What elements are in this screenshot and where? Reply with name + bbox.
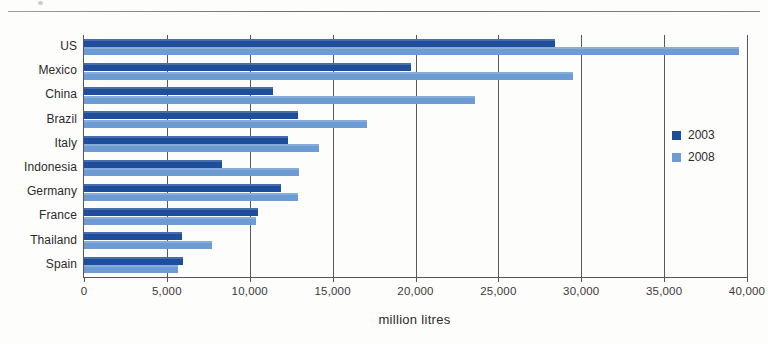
x-tick — [581, 277, 582, 282]
x-tick-label: 30,000 — [563, 285, 599, 297]
x-tick — [84, 277, 85, 282]
bar-row: Italy — [84, 132, 747, 156]
chart-legend: 20032008 — [672, 128, 715, 164]
category-label: Germany — [27, 184, 77, 198]
bar-row: France — [84, 204, 747, 228]
x-tick — [498, 277, 499, 282]
x-tick — [333, 277, 334, 282]
category-label: Italy — [54, 136, 77, 150]
bar-row: Germany — [84, 180, 747, 204]
category-label: Spain — [46, 257, 77, 271]
bar-2008 — [84, 217, 256, 225]
x-tick-label: 5,000 — [152, 285, 182, 297]
category-label: China — [45, 87, 77, 101]
category-label: France — [39, 208, 77, 222]
bar-rows: USMexicoChinaBrazilItalyIndonesiaGermany… — [84, 35, 747, 277]
bar-2008 — [84, 144, 319, 152]
bar-2003 — [84, 63, 411, 71]
legend-item: 2003 — [672, 128, 715, 142]
legend-label: 2008 — [688, 150, 715, 164]
x-tick — [416, 277, 417, 282]
bar-2003 — [84, 184, 281, 192]
x-tick-label: 10,000 — [232, 285, 268, 297]
bar-2003 — [84, 87, 273, 95]
legend-label: 2003 — [688, 128, 715, 142]
bar-row: Brazil — [84, 108, 747, 132]
bar-row: Thailand — [84, 229, 747, 253]
bar-2003 — [84, 232, 182, 240]
x-tick-label: 35,000 — [646, 285, 682, 297]
bar-2008 — [84, 72, 573, 80]
chart-page: USMexicoChinaBrazilItalyIndonesiaGermany… — [0, 0, 768, 344]
bar-2008 — [84, 241, 212, 249]
category-label: Brazil — [46, 112, 77, 126]
x-tick-label: 25,000 — [480, 285, 516, 297]
category-label: Indonesia — [24, 160, 77, 174]
legend-swatch — [672, 131, 681, 140]
header-rule — [8, 11, 760, 12]
bar-2008 — [84, 193, 298, 201]
plot-area: USMexicoChinaBrazilItalyIndonesiaGermany… — [83, 35, 747, 278]
bar-row: Spain — [84, 253, 747, 277]
bar-row: Indonesia — [84, 156, 747, 180]
bar-2003 — [84, 257, 183, 265]
category-label: US — [60, 39, 77, 53]
category-label: Mexico — [38, 63, 77, 77]
x-tick — [747, 277, 748, 282]
bar-2008 — [84, 120, 367, 128]
legend-item: 2008 — [672, 150, 715, 164]
x-tick — [167, 277, 168, 282]
bar-2008 — [84, 47, 739, 55]
bar-2008 — [84, 168, 299, 176]
bar-2003 — [84, 39, 555, 47]
bar-row: US — [84, 35, 747, 59]
scan-artifact — [38, 1, 43, 5]
x-tick-label: 40,000 — [729, 285, 765, 297]
bar-2003 — [84, 136, 288, 144]
x-tick-label: 15,000 — [314, 285, 350, 297]
x-tick — [664, 277, 665, 282]
category-label: Thailand — [30, 233, 77, 247]
x-tick-label: 20,000 — [397, 285, 433, 297]
x-tick — [250, 277, 251, 282]
x-tick-label: 0 — [81, 285, 88, 297]
bar-2008 — [84, 96, 475, 104]
x-axis-title: million litres — [83, 312, 746, 327]
gridline — [747, 35, 748, 277]
legend-swatch — [672, 153, 681, 162]
bar-row: China — [84, 83, 747, 107]
bar-row: Mexico — [84, 59, 747, 83]
bar-2003 — [84, 160, 222, 168]
bar-2003 — [84, 111, 298, 119]
bar-2008 — [84, 265, 178, 273]
bar-2003 — [84, 208, 258, 216]
